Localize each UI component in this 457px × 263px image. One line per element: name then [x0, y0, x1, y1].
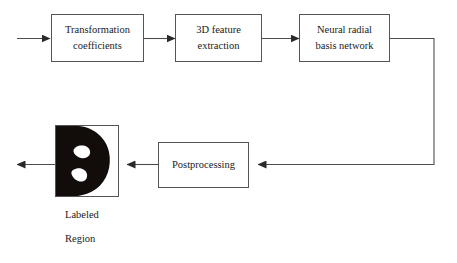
- node-neural-radial-basis-network[interactable]: Neural radial basis network: [299, 14, 390, 62]
- labeled-region-caption-line2: Region: [65, 234, 95, 245]
- flowchart-canvas: Transformation coefficients 3D feature e…: [0, 0, 457, 263]
- region-blob: [56, 126, 110, 196]
- node-transformation-line2: coefficients: [73, 38, 122, 54]
- labeled-region-caption-line1: Labeled: [65, 210, 99, 221]
- labeled-region-shape: [56, 126, 118, 196]
- node-feature-line1: 3D feature: [196, 22, 241, 38]
- node-transformation-coefficients[interactable]: Transformation coefficients: [51, 14, 144, 62]
- labeled-region-image[interactable]: [55, 125, 119, 197]
- node-postprocessing-label: Postprocessing: [172, 157, 235, 173]
- node-network-line1: Neural radial: [317, 22, 372, 38]
- node-postprocessing[interactable]: Postprocessing: [158, 142, 249, 188]
- node-network-line2: basis network: [315, 38, 373, 54]
- node-feature-line2: extraction: [198, 38, 240, 54]
- node-3d-feature-extraction[interactable]: 3D feature extraction: [175, 14, 262, 62]
- node-transformation-line1: Transformation: [65, 22, 130, 38]
